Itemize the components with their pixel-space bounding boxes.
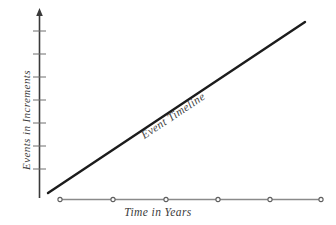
x-axis-label: Time in Years [108,206,208,218]
x-axis-marker [268,197,272,201]
x-axis-marker [111,197,115,201]
y-axis-label: Events in Increments [20,50,32,190]
x-axis-marker [216,197,220,201]
x-axis-marker [319,197,323,201]
x-axis-marker [164,197,168,201]
x-axis-marker [58,197,62,201]
chart-container: Events in Increments Time in Years Event… [0,0,336,225]
y-axis-arrow-icon [36,8,43,16]
